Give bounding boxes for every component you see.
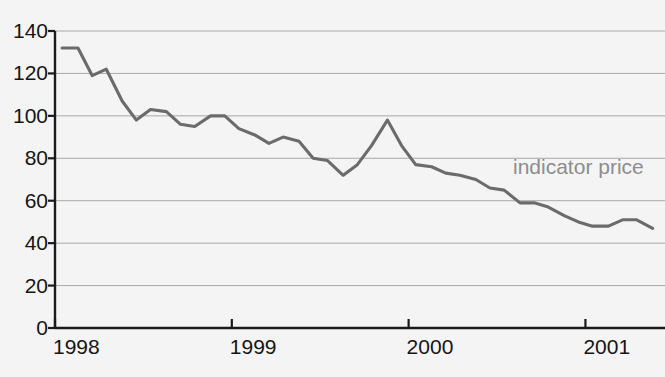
y-tick-label: 100 bbox=[4, 105, 48, 126]
x-tick-marks-group bbox=[55, 319, 585, 328]
x-tick-label: 1998 bbox=[53, 336, 100, 357]
y-tick-label: 80 bbox=[4, 147, 48, 168]
y-tick-label: 140 bbox=[4, 20, 48, 41]
y-tick-label: 20 bbox=[4, 275, 48, 296]
chart-container: 140120100806040200 indicator price 19981… bbox=[0, 0, 665, 377]
x-tick-label: 2001 bbox=[583, 336, 630, 357]
x-tick-label: 2000 bbox=[407, 336, 454, 357]
y-tick-label: 40 bbox=[4, 232, 48, 253]
y-axis-tick-labels: 140120100806040200 bbox=[0, 0, 48, 377]
data-series-line bbox=[62, 48, 653, 228]
y-tick-label: 0 bbox=[4, 317, 48, 338]
chart-plot-area bbox=[0, 0, 665, 377]
series-annotation-label: indicator price bbox=[513, 156, 644, 177]
y-tick-label: 120 bbox=[4, 62, 48, 83]
y-tick-label: 60 bbox=[4, 190, 48, 211]
x-tick-label: 1999 bbox=[230, 336, 277, 357]
